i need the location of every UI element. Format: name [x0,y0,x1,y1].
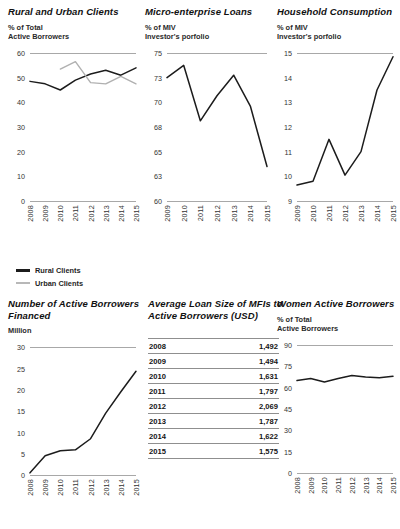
table-cell-value: 1,494 [259,357,278,366]
series-line [297,375,393,381]
panel-women-active-borrowers: Women Active Borrowers % of Total Active… [277,298,397,526]
chart-rural-urban-clients: 0102030405060200820092010201120122013201… [8,47,140,247]
chart-subtitle-household: % of MIV Investor's porfolio [277,23,397,41]
table-cell-value: 1,631 [259,372,278,381]
chart-women-active-borrowers: 0153045607590200820092010201120122013201… [277,339,397,519]
table-row: 20151,575 [148,444,279,459]
chart-subtitle-women: % of Total Active Borrowers [277,315,397,333]
table-row: 20122,069 [148,399,279,414]
chart-title-household: Household Consumption [277,6,397,18]
legend-item-rural: Rural Clients [16,266,136,275]
legend-label-rural: Rural Clients [35,266,81,275]
legend-swatch-rural [16,269,30,271]
panel-micro-enterprise-loans: Micro-enterprise Loans % of MIV Investor… [145,6,271,256]
table-cell-year: 2011 [149,387,165,396]
chart-title-micro-loans: Micro-enterprise Loans [145,6,271,18]
table-cell-value: 1,575 [259,447,278,456]
chart-subtitle-borrowers: Million [8,326,140,335]
table-cell-value: 1,787 [259,417,278,426]
table-row: 20111,797 [148,384,279,399]
table-title-loan-size: Average Loan Size of MFIs to Active Borr… [148,298,283,321]
table-cell-year: 2010 [149,372,166,381]
chart-title-women: Women Active Borrowers [277,298,397,310]
table-cell-value: 2,069 [259,402,278,411]
chart-household-consumption: 9101112131415200920102011201220132014201… [277,47,397,247]
chart-series-layer [8,47,140,247]
panel-average-loan-size: Average Loan Size of MFIs to Active Borr… [148,298,283,526]
table-cell-year: 2014 [149,432,166,441]
dashboard-grid: Rural and Urban Clients % of Total Activ… [0,0,400,529]
chart-micro-enterprise-loans: 6063656870737520092010201120122013201420… [145,47,271,247]
table-cell-year: 2008 [149,342,166,351]
chart-series-layer [277,339,397,519]
table-cell-year: 2015 [149,447,166,456]
chart-title-borrowers: Number of Active Borrowers Financed [8,298,140,321]
panel-household-consumption: Household Consumption % of MIV Investor'… [277,6,397,256]
chart-series-layer [277,47,397,247]
table-row: 20081,492 [148,338,279,354]
legend-item-urban: Urban Clients [16,279,136,288]
chart-subtitle-micro-loans: % of MIV Investor's porfolio [145,23,271,41]
legend-label-urban: Urban Clients [35,279,83,288]
table-cell-value: 1,622 [259,432,278,441]
chart-subtitle-rural-urban: % of Total Active Borrowers [8,23,140,41]
table-cell-value: 1,492 [259,342,278,351]
series-line [297,57,393,185]
table-row: 20141,622 [148,429,279,444]
chart-active-borrowers-financed: 0510152025302008200920102011201220132014… [8,341,140,521]
series-line [30,372,136,474]
table-row: 20131,787 [148,414,279,429]
chart-series-layer [145,47,271,247]
table-cell-value: 1,797 [259,387,278,396]
table-cell-year: 2013 [149,417,166,426]
chart-series-layer [8,341,140,521]
table-average-loan-size: 20081,49220091,49420101,63120111,7972012… [148,338,279,459]
table-cell-year: 2012 [149,402,166,411]
table-row: 20091,494 [148,354,279,369]
legend-swatch-urban [16,282,30,284]
table-cell-year: 2009 [149,357,166,366]
panel-active-borrowers-financed: Number of Active Borrowers Financed Mill… [8,298,140,526]
series-line [167,65,267,166]
table-row: 20101,631 [148,369,279,384]
chart-title-rural-urban: Rural and Urban Clients [8,6,140,18]
panel-rural-urban-clients: Rural and Urban Clients % of Total Activ… [8,6,140,256]
legend-rural-urban: Rural Clients Urban Clients [16,266,136,291]
